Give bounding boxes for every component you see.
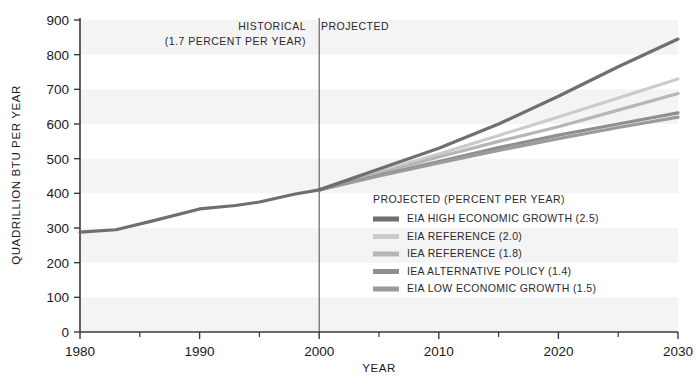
y-tick-label: 400 [46, 186, 69, 201]
legend-swatch [373, 287, 399, 292]
y-tick-label: 900 [46, 13, 69, 28]
legend-item-label: EIA REFERENCE (2.0) [407, 230, 522, 242]
legend-item-label: EIA HIGH ECONOMIC GROWTH (2.5) [407, 212, 599, 224]
projected-annotation: PROJECTED [321, 20, 389, 32]
x-tick-label: 2000 [304, 344, 334, 359]
background-band [80, 228, 678, 263]
legend-swatch [373, 234, 399, 239]
chart-canvas: 0100200300400500600700800900 19801990200… [0, 0, 696, 388]
legend-title: PROJECTED (PERCENT PER YEAR) [373, 193, 565, 205]
legend-swatch [373, 217, 399, 222]
x-axis-title: YEAR [362, 362, 396, 374]
y-tick-label: 100 [46, 290, 69, 305]
x-tick-label: 2020 [543, 344, 573, 359]
legend-swatch [373, 252, 399, 257]
historical-line [80, 190, 319, 232]
legend-swatch [373, 269, 399, 274]
y-tick-label: 800 [46, 48, 69, 63]
x-tick-label: 1980 [65, 344, 95, 359]
energy-consumption-chart: 0100200300400500600700800900 19801990200… [0, 0, 696, 388]
background-band [80, 297, 678, 332]
y-tick-label: 300 [46, 221, 69, 236]
legend-item-label: IEA REFERENCE (1.8) [407, 247, 522, 259]
y-tick-label: 600 [46, 117, 69, 132]
y-tick-label: 500 [46, 152, 69, 167]
y-axis-ticks: 0100200300400500600700800900 [46, 13, 80, 340]
historical-rate-annotation: (1.7 PERCENT PER YEAR) [165, 35, 306, 47]
y-tick-label: 200 [46, 256, 69, 271]
x-tick-label: 1990 [185, 344, 215, 359]
x-tick-label: 2010 [424, 344, 454, 359]
x-tick-label: 2030 [663, 344, 693, 359]
legend-item-label: IEA ALTERNATIVE POLICY (1.4) [407, 265, 571, 277]
legend-item-label: EIA LOW ECONOMIC GROWTH (1.5) [407, 282, 596, 294]
y-tick-label: 700 [46, 82, 69, 97]
y-tick-label: 0 [61, 325, 69, 340]
historical-annotation: HISTORICAL [238, 20, 306, 32]
y-axis-title: QUADRILLION BTU PER YEAR [10, 85, 22, 265]
